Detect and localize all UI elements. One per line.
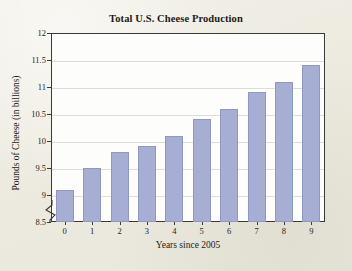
x-tick-mark [65,222,66,225]
x-tick-mark [92,222,93,225]
y-tick-label: 8.5 [35,217,46,227]
x-tick-label: 3 [145,226,149,236]
bar [83,168,101,222]
bar [220,109,238,222]
bar [56,190,74,222]
x-tick-mark [147,222,148,225]
y-tick-label: 10 [38,136,47,146]
chart-figure: Total U.S. Cheese Production Pounds of C… [0,0,352,271]
x-tick-label: 7 [254,226,258,236]
y-tick-mark [47,168,51,169]
bar [302,65,320,222]
y-tick-mark [47,195,51,196]
x-tick-mark [284,222,285,225]
bar-series [51,33,325,222]
y-axis-title: Pounds of Cheese (in billions) [11,53,21,213]
chart-title: Total U.S. Cheese Production [0,13,352,24]
y-tick-mark [47,33,51,34]
y-tick-mark [47,60,51,61]
axis-break-icon [44,200,58,222]
bar [138,146,156,222]
x-tick-label: 6 [227,226,231,236]
y-tick-label: 9 [42,190,46,200]
x-tick-label: 0 [63,226,67,236]
bar [275,82,293,222]
y-axis: Pounds of Cheese (in billions) 8.599.510… [0,0,51,271]
bar [165,136,183,222]
x-tick-label: 8 [282,226,286,236]
x-axis-title: Years since 2005 [51,240,325,250]
x-tick-mark [229,222,230,225]
x-tick-label: 2 [117,226,121,236]
y-tick-mark [47,141,51,142]
x-tick-label: 9 [309,226,313,236]
y-tick-mark [47,87,51,88]
x-tick-mark [202,222,203,225]
y-tick-label: 11.5 [31,55,46,65]
bar [248,92,266,222]
x-tick-mark [311,222,312,225]
y-tick-label: 12 [38,28,47,38]
bar [111,152,129,222]
x-tick-mark [257,222,258,225]
x-tick-label: 5 [200,226,204,236]
y-tick-label: 11 [38,82,46,92]
x-axis: 0123456789 [51,222,325,242]
x-tick-mark [120,222,121,225]
x-tick-label: 4 [172,226,176,236]
y-tick-label: 10.5 [31,109,46,119]
y-tick-mark [47,114,51,115]
x-tick-mark [174,222,175,225]
y-tick-label: 9.5 [35,163,46,173]
x-tick-label: 1 [90,226,94,236]
bar [193,119,211,222]
